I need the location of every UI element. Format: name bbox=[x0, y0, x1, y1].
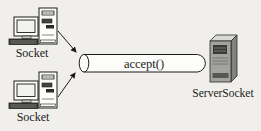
socket-diagram: Socket Socket accept() ServerSocket bbox=[0, 0, 261, 131]
client-bottom-label: Socket bbox=[17, 110, 50, 124]
server-label: ServerSocket bbox=[192, 87, 254, 99]
pipe-mouth bbox=[79, 54, 89, 72]
server-tower-icon bbox=[210, 35, 237, 82]
client-top-label: Socket bbox=[16, 46, 49, 60]
pipe-label: accept() bbox=[124, 57, 164, 71]
diagram-canvas: Socket Socket accept() ServerSocket bbox=[0, 0, 261, 131]
